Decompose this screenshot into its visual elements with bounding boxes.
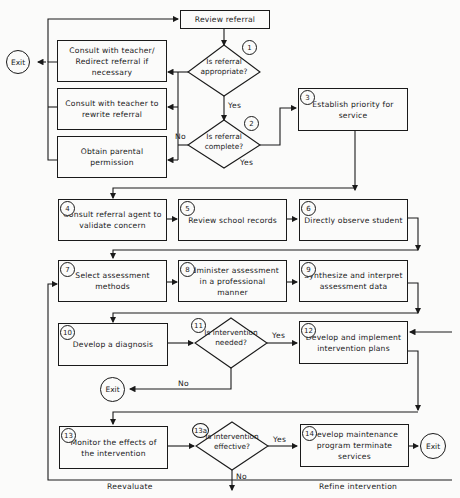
exit-node-bottom: Exit (420, 433, 446, 459)
step-12-label: Develop and implement intervention plans (304, 332, 403, 354)
step-5-label: Review school records (188, 215, 277, 226)
edge-label-no-13a: No (236, 472, 247, 481)
step-7-label: Select assessment methods (63, 270, 162, 292)
step-14-label: Develop maintenance program terminate se… (305, 429, 404, 462)
step-8-label: Administer assessment in a professional … (183, 265, 282, 298)
step-13-label: Monitor the effects of the intervention (64, 437, 163, 459)
step-number-14: 14 (302, 426, 317, 441)
step-6-label: Directly observe student (304, 215, 402, 226)
step-9-label: Synthesize and interpret assessment data (304, 270, 403, 292)
step-number-2: 2 (244, 116, 259, 131)
consult-rewrite-label: Consult with teacher to rewrite referral (62, 98, 162, 120)
edge-label-yes-11: Yes (272, 331, 285, 340)
parental-permission-box: Obtain parental permission (57, 136, 167, 178)
edge-label-yes-13a: Yes (273, 435, 286, 444)
exit-node-top: Exit (6, 50, 30, 74)
exit-label: Exit (105, 385, 119, 394)
exit-label: Exit (426, 442, 440, 451)
consult-rewrite-box: Consult with teacher to rewrite referral (57, 88, 167, 130)
edge-label-no-11: No (178, 379, 189, 388)
step-number-1: 1 (242, 40, 257, 55)
parental-permission-label: Obtain parental permission (62, 146, 162, 168)
reevaluate-label: Reevaluate (107, 482, 153, 491)
decision-2-label: Is referral complete? (196, 132, 252, 152)
flowchart-canvas: Review referral Consult with teacher/ Re… (0, 0, 460, 498)
step-number-10: 10 (60, 325, 75, 340)
step-10-label: Develop a diagnosis (73, 339, 153, 350)
decision-13a-label: Is intervention effective? (204, 432, 260, 452)
step-4-label: Consult referral agent to validate conce… (63, 209, 162, 231)
consult-redirect-box: Consult with teacher/ Redirect referral … (57, 40, 167, 82)
step-number-9: 9 (301, 262, 316, 277)
edge-label-no-2: No (175, 132, 186, 141)
edge-label-yes-2: Yes (240, 158, 253, 167)
step-number-4: 4 (60, 201, 75, 216)
step-number-5: 5 (180, 201, 195, 216)
step-number-7: 7 (60, 262, 75, 277)
step-number-6: 6 (301, 201, 316, 216)
exit-label: Exit (11, 58, 25, 67)
edge-label-yes-1: Yes (228, 101, 241, 110)
refine-intervention-label: Refine intervention (319, 482, 397, 491)
step-number-13: 13 (61, 428, 76, 443)
review-referral-label: Review referral (195, 14, 255, 25)
decision-1-label: Is referral appropriate? (196, 57, 252, 77)
step-number-3: 3 (300, 90, 315, 105)
exit-node-middle: Exit (100, 377, 125, 402)
step-number-8: 8 (180, 262, 195, 277)
review-referral-box: Review referral (180, 10, 270, 29)
step-3-label: Establish priority for service (303, 99, 403, 121)
consult-redirect-label: Consult with teacher/ Redirect referral … (62, 45, 162, 78)
decision-11-label: Is intervention needed? (203, 328, 259, 348)
step-number-12: 12 (301, 323, 316, 338)
